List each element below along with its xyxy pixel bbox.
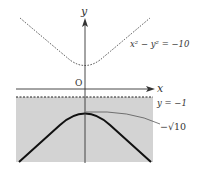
hyperbola-equation-label: x² − y² = −10 (130, 39, 190, 49)
origin-label: O (75, 78, 82, 88)
line-equation-label: y = −1 (156, 98, 187, 108)
hyperbola-diagram: y x O x² − y² = −10 y = −1 −√10 (0, 0, 197, 169)
x-axis-label: x (157, 82, 164, 95)
shaded-region (16, 97, 153, 162)
y-axis-label: y (80, 5, 88, 18)
vertex-value-label: −√10 (160, 121, 186, 132)
